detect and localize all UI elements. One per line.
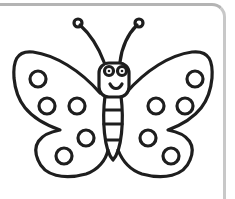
butterfly-head [99, 63, 129, 97]
antennae [74, 19, 143, 62]
butterfly-illustration [0, 0, 235, 199]
left-wing [14, 52, 108, 177]
left-wing-spots [30, 71, 94, 164]
butterfly-body [104, 96, 123, 160]
